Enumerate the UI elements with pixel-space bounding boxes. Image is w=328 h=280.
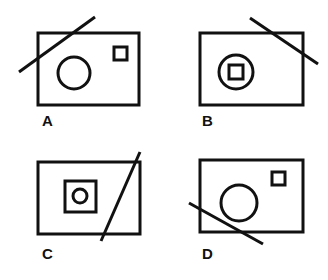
panel-a-circle [58, 57, 90, 89]
panel-c-rectangle [38, 162, 140, 234]
panel-a-diagonal-line [19, 17, 95, 72]
figure-container: A B C D [0, 0, 328, 280]
panel-c-diagonal-line [101, 152, 140, 241]
panel-a-small-square [114, 47, 127, 60]
panel-b-circle [219, 55, 253, 89]
panel-d: D [189, 160, 303, 262]
panel-c-square [65, 181, 96, 212]
panel-b-label: B [202, 112, 213, 129]
panel-a-label: A [42, 112, 53, 129]
diagram-canvas: A B C D [0, 0, 328, 280]
panel-d-label: D [202, 245, 213, 262]
panel-c-label: C [42, 245, 53, 262]
panel-d-rectangle [200, 160, 303, 232]
panel-c-inner-circle [73, 189, 87, 203]
panel-d-small-square [272, 172, 285, 185]
panel-b-inner-square [229, 65, 243, 79]
panel-b: B [200, 18, 318, 129]
panel-b-diagonal-line [250, 18, 318, 64]
panel-a: A [19, 17, 139, 129]
panel-c: C [38, 152, 140, 262]
panel-d-circle [221, 185, 257, 221]
